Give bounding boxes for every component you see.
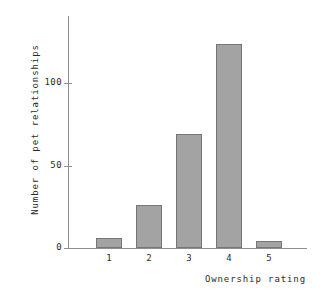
y-tick-label-wrap-0: 0 — [0, 243, 62, 253]
x-tick-label-5: 5 — [256, 254, 282, 263]
y-tick-mark-0 — [64, 248, 72, 249]
y-tick-label-0: 0 — [4, 243, 62, 252]
x-tick-label-4: 4 — [216, 254, 242, 263]
x-axis-title: Ownership rating — [0, 275, 306, 284]
x-tick-label-1: 1 — [96, 254, 122, 263]
bar-2 — [136, 205, 162, 248]
bar-4 — [216, 44, 242, 248]
x-axis-line — [68, 248, 307, 249]
plot-area — [68, 16, 307, 248]
x-tick-label-2: 2 — [136, 254, 162, 263]
bar-5 — [256, 241, 282, 248]
bar-3 — [176, 134, 202, 248]
bar-chart: 0 50 100 1 2 3 4 5 Ownership rating Numb… — [0, 0, 331, 300]
x-tick-label-3: 3 — [176, 254, 202, 263]
y-axis-title: Number of pet relationships — [31, 20, 40, 240]
bar-1 — [96, 238, 122, 248]
